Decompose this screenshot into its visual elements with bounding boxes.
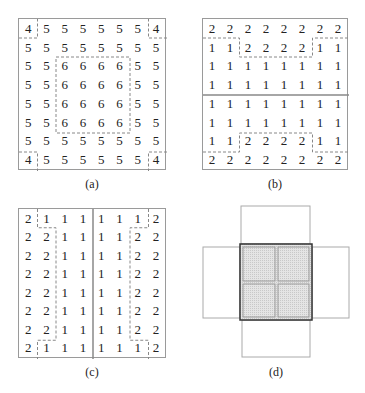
top-rect (241, 206, 310, 244)
right-rect (312, 247, 349, 318)
left-rect (203, 247, 240, 318)
center-square (240, 244, 312, 320)
caption-d: (d) (256, 365, 296, 380)
bottom-rect (242, 320, 310, 357)
panel-d (0, 0, 365, 393)
